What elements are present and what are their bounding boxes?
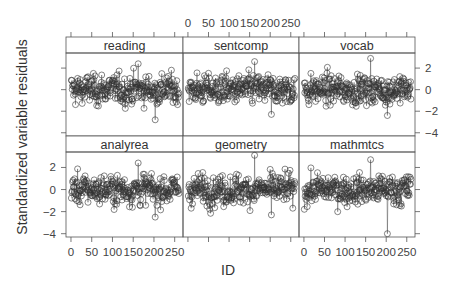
svg-text:−2: −2 [43, 206, 56, 218]
svg-text:50: 50 [85, 246, 98, 258]
svg-text:250: 250 [165, 246, 184, 258]
strip-label: sentcomp [214, 39, 268, 53]
svg-text:2: 2 [425, 62, 431, 74]
panel-geometry: geometry [183, 136, 299, 237]
y-axis-label: Standardized variable residuals [14, 39, 30, 234]
svg-text:0: 0 [301, 246, 307, 258]
svg-text:−2: −2 [425, 105, 438, 117]
strip-label: reading [104, 39, 146, 53]
svg-text:2: 2 [50, 161, 56, 173]
svg-text:250: 250 [281, 17, 300, 29]
svg-text:0: 0 [425, 84, 431, 96]
svg-text:−4: −4 [425, 127, 439, 139]
strip-label: mathmtcs [330, 138, 384, 152]
panel-reading: reading [66, 37, 183, 136]
svg-text:250: 250 [397, 246, 416, 258]
panel-mathmtcs: mathmtcs [299, 136, 415, 237]
svg-text:150: 150 [356, 246, 375, 258]
svg-text:150: 150 [240, 17, 259, 29]
svg-text:50: 50 [202, 17, 215, 29]
svg-text:0: 0 [185, 17, 191, 29]
panel-vocab: vocab [299, 37, 415, 136]
panel-analyrea: analyrea [66, 136, 183, 237]
svg-text:100: 100 [219, 17, 238, 29]
svg-text:200: 200 [144, 246, 163, 258]
svg-text:200: 200 [261, 17, 280, 29]
strip-label: vocab [340, 39, 373, 53]
panel-sentcomp: sentcomp [183, 37, 299, 136]
x-axis-label: ID [0, 262, 456, 278]
svg-text:50: 50 [318, 246, 331, 258]
strip-label: geometry [215, 138, 268, 152]
svg-text:0: 0 [68, 246, 74, 258]
strip-label: analyrea [101, 138, 149, 152]
trellis-residual-plot: readingsentcompvocabanalyreageometrymath… [0, 0, 456, 293]
svg-text:−4: −4 [43, 228, 57, 240]
svg-text:100: 100 [335, 246, 354, 258]
svg-text:0: 0 [50, 184, 56, 196]
svg-text:200: 200 [377, 246, 396, 258]
svg-text:100: 100 [103, 246, 122, 258]
svg-text:150: 150 [124, 246, 143, 258]
